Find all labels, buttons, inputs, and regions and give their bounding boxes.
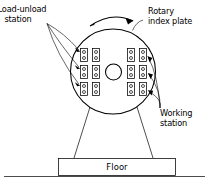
- station-module: [128, 49, 135, 62]
- station-module: [128, 66, 135, 79]
- station-module: [140, 66, 147, 79]
- rotary-index-label-line2: index plate: [148, 16, 192, 26]
- station-module: [140, 83, 147, 96]
- leader-arrowhead: [148, 73, 153, 79]
- center-hub-circle: [106, 64, 122, 80]
- rotary-index-label-line1: Rotary: [148, 6, 174, 16]
- pedestal-group: [74, 107, 153, 158]
- load-unload-label-line1: Load-unload: [0, 4, 46, 14]
- pedestal-right-leg: [137, 107, 153, 158]
- rotary-index-machine-diagram: Load-unload station Rotary index plate W…: [0, 0, 209, 185]
- leader-line: [133, 20, 144, 31]
- load-unload-stations-group: [81, 49, 100, 96]
- rotary-index-leader-line: [133, 20, 144, 31]
- station-module: [140, 49, 147, 62]
- load-unload-leader-lines: [47, 24, 80, 87]
- station-module: [93, 66, 100, 79]
- station-module: [93, 83, 100, 96]
- leader-arrowhead: [147, 56, 152, 62]
- station-module: [81, 66, 88, 79]
- station-module: [81, 83, 88, 96]
- pedestal-left-leg: [74, 107, 90, 158]
- working-station-label-line1: Working: [160, 108, 192, 118]
- station-module: [93, 49, 100, 62]
- load-unload-label-line2: station: [4, 14, 31, 24]
- station-module: [128, 83, 135, 96]
- floor-label: Floor: [106, 162, 128, 172]
- working-station-label-line2: station: [160, 118, 187, 128]
- diagram-canvas: Load-unload station Rotary index plate W…: [0, 0, 209, 185]
- station-module: [81, 49, 88, 62]
- rotation-arrow-group: [90, 17, 134, 26]
- working-stations-group: [128, 49, 147, 96]
- working-leader-lines: [147, 56, 160, 108]
